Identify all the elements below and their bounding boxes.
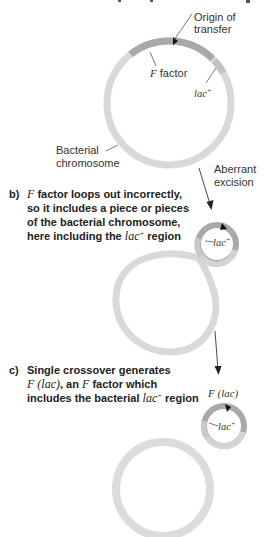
- panel-b-caption: b) F factor loops out incorrectly, so it…: [9, 187, 189, 243]
- f-lac-label: F (lac): [207, 387, 239, 400]
- origin-label: Origin of: [194, 11, 237, 23]
- svg-text:c): c): [9, 364, 19, 376]
- plasmid-bottom-arc: [207, 432, 243, 446]
- chromosome-loop-large: [116, 254, 216, 352]
- chromosome-label-2: chromosome: [56, 157, 120, 169]
- f-factor-label: F factor: [149, 67, 188, 79]
- transition-aberrant-excision: Aberrant excision: [199, 163, 256, 210]
- panel-c-figure: F (lac) lac+: [116, 387, 244, 536]
- panel-a: Origin of transfer F factor lac+ Bacteri…: [56, 11, 237, 169]
- svg-text:Single crossover generates: Single crossover generates: [27, 364, 171, 376]
- lac-label: lac+: [213, 236, 231, 248]
- bacterial-chromosome-ring: [107, 41, 231, 165]
- transition-arrow-b-c: [215, 331, 222, 375]
- svg-text:of the bacterial chromosome,: of the bacterial chromosome,: [27, 216, 180, 228]
- svg-text:F (lac), an F factor which: F (lac), an F factor which: [26, 377, 157, 391]
- chromosome-label: Bacterial: [56, 144, 99, 156]
- lac-label: lac+: [194, 87, 212, 99]
- svg-text:b): b): [9, 188, 20, 200]
- lac-region-arc: [215, 61, 224, 73]
- f-factor-excision-diagram: Origin of transfer F factor lac+ Bacteri…: [0, 0, 266, 537]
- f-factor-arc: [131, 41, 213, 59]
- origin-label-2: transfer: [194, 23, 232, 35]
- svg-text:includes the bacterial lac+ re: includes the bacterial lac+ region: [27, 391, 199, 405]
- svg-text:so it includes a piece or piec: so it includes a piece or pieces: [27, 202, 189, 214]
- heading-a-cutoff: [10, 0, 250, 3]
- svg-text:F factor loops out incorrectly: F factor loops out incorrectly,: [26, 187, 182, 201]
- svg-text:Aberrant: Aberrant: [214, 163, 256, 175]
- svg-text:here including the lac+ region: here including the lac+ region: [27, 229, 181, 243]
- lac-label: lac+: [218, 420, 236, 432]
- plasmid-lac-arc: [204, 421, 207, 437]
- svg-text:excision: excision: [214, 176, 254, 188]
- panel-c-caption: c) Single crossover generates F (lac), a…: [9, 364, 199, 405]
- bacterial-chromosome-ring: [116, 442, 210, 536]
